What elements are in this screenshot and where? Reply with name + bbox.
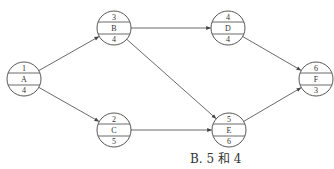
- edge-b-e: [127, 39, 216, 118]
- node-early-start: 5: [227, 115, 231, 124]
- node-a: 1A4: [7, 62, 41, 96]
- node-early-start: 6: [314, 64, 318, 73]
- edge-a-b: [39, 37, 99, 71]
- node-early-start: 3: [112, 13, 116, 22]
- node-e: 5E6: [212, 113, 246, 147]
- edge-e-f: [244, 88, 301, 122]
- node-activity-label: A: [21, 75, 27, 84]
- node-activity-label: D: [225, 24, 231, 33]
- node-early-start: 2: [112, 115, 116, 124]
- node-duration: 4: [22, 86, 26, 95]
- node-activity-label: B: [111, 24, 116, 33]
- node-b: 3B4: [97, 11, 131, 45]
- edge-a-c: [39, 87, 99, 121]
- node-d: 4D4: [211, 11, 245, 45]
- answer-caption: B. 5 和 4: [190, 149, 241, 166]
- node-activity-label: E: [227, 126, 232, 135]
- node-duration: 3: [314, 86, 318, 95]
- node-duration: 5: [112, 137, 116, 146]
- edges-layer: [39, 28, 301, 130]
- nodes-layer: 1A43B42C54D45E66F3: [7, 11, 333, 147]
- node-duration: 4: [226, 35, 230, 44]
- node-c: 2C5: [97, 113, 131, 147]
- node-early-start: 4: [226, 13, 230, 22]
- network-diagram: 1A43B42C54D45E66F3: [0, 0, 334, 169]
- node-duration: 4: [112, 35, 116, 44]
- node-duration: 6: [227, 137, 231, 146]
- node-activity-label: F: [314, 75, 319, 84]
- edge-d-f: [243, 37, 301, 71]
- node-f: 6F3: [299, 62, 333, 96]
- node-activity-label: C: [111, 126, 116, 135]
- node-early-start: 1: [22, 64, 26, 73]
